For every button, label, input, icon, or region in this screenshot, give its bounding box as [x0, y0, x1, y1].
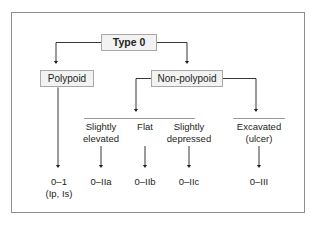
code-label-line-1: 0–IIb	[124, 176, 166, 188]
subtype-label-line-2: (ulcer)	[231, 133, 287, 145]
subtype-label-line-2: elevated	[78, 133, 124, 145]
subtype-group-rule-left	[84, 118, 195, 119]
node-polypoid-label: Polypoid	[48, 74, 86, 84]
code-label-line-2: (Ip, Is)	[36, 188, 82, 200]
subtype-label-slightly-depressed: Slightly depressed	[163, 121, 215, 144]
subtype-label-line-1: Slightly	[163, 121, 215, 133]
code-label-line-1: 0–IIc	[165, 176, 213, 188]
code-label-slightly-depressed: 0–IIc	[165, 176, 213, 188]
node-non-polypoid-label: Non-polypoid	[158, 74, 217, 84]
code-label-line-1: 0–III	[234, 176, 284, 188]
code-label-polypoid: 0–1 (Ip, Is)	[36, 176, 82, 199]
subtype-label-line-1: Flat	[124, 121, 166, 133]
code-label-slightly-elevated: 0–IIa	[78, 176, 124, 188]
code-label-flat: 0–IIb	[124, 176, 166, 188]
code-label-line-1: 0–1	[36, 176, 82, 188]
code-label-excavated: 0–III	[234, 176, 284, 188]
node-non-polypoid[interactable]: Non-polypoid	[151, 70, 223, 87]
subtype-group-rule-right	[233, 118, 285, 119]
subtype-label-line-1: Slightly	[78, 121, 124, 133]
node-type-0[interactable]: Type 0	[101, 34, 157, 51]
subtype-label-slightly-elevated: Slightly elevated	[78, 121, 124, 144]
code-label-line-1: 0–IIa	[78, 176, 124, 188]
subtype-label-line-2: depressed	[163, 133, 215, 145]
subtype-label-flat: Flat	[124, 121, 166, 133]
diagram-figure: Type 0 Polypoid Non-polypoid Slightly el…	[0, 0, 318, 226]
subtype-label-excavated: Excavated (ulcer)	[231, 121, 287, 144]
subtype-label-line-1: Excavated	[231, 121, 287, 133]
node-type-0-label: Type 0	[113, 37, 145, 48]
node-polypoid[interactable]: Polypoid	[40, 70, 94, 87]
